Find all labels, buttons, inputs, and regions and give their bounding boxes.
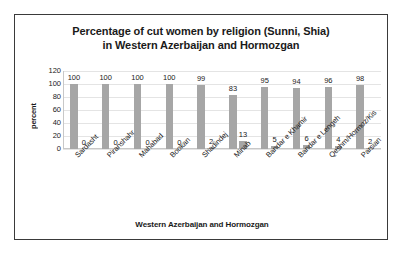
y-axis-tick-label: 120 <box>48 67 61 75</box>
y-axis-tick-label: 100 <box>48 80 61 88</box>
bar-value-label: 94 <box>288 78 306 86</box>
bar-value-label: 100 <box>129 74 147 82</box>
y-axis-tick-label: 20 <box>53 132 61 140</box>
chart-title: Percentage of cut women by religion (Sun… <box>15 24 387 52</box>
y-axis-tick-label: 60 <box>53 106 61 114</box>
bar-value-label: 99 <box>192 75 210 83</box>
y-axis-tick-label: 80 <box>53 93 61 101</box>
chart-figure-frame: Percentage of cut women by religion (Sun… <box>14 14 388 240</box>
y-axis-tick-label: 0 <box>57 145 61 153</box>
bar-value-label: 100 <box>97 74 115 82</box>
bar-value-label: 100 <box>65 74 83 82</box>
plot-wrap: percent 120100806040200 1000100010001000… <box>15 63 388 240</box>
chart-title-line-1: Percentage of cut women by religion (Sun… <box>15 24 387 38</box>
bar-value-label: 98 <box>351 75 369 83</box>
bar-value-label: 100 <box>160 74 178 82</box>
bar <box>229 95 237 149</box>
bar-value-label: 95 <box>256 77 274 85</box>
bar-value-label: 96 <box>319 77 337 85</box>
y-axis-title: percent <box>26 81 40 151</box>
y-axis-tick-labels: 120100806040200 <box>39 71 61 149</box>
bar-value-label: 83 <box>224 85 242 93</box>
chart-title-line-2: in Western Azerbaijan and Hormozgan <box>15 38 387 52</box>
x-axis-category-labels: SardashtPiranshahrMahabadBookanShadindej… <box>63 153 381 215</box>
y-axis-tick-label: 40 <box>53 119 61 127</box>
x-axis-title: Western Azerbaijan and Hormozgan <box>15 220 388 229</box>
bar-value-label: 13 <box>234 131 252 139</box>
